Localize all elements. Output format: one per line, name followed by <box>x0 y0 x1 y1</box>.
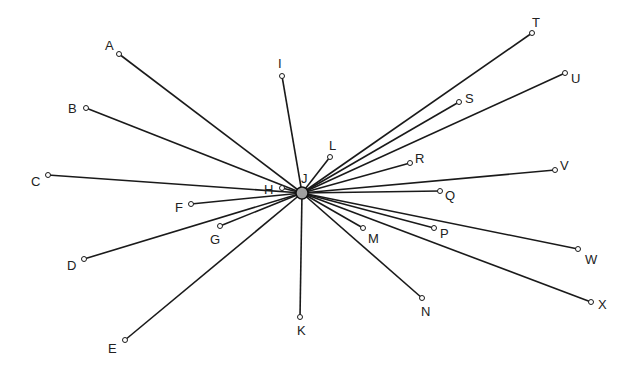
node-q <box>438 189 443 194</box>
node-label-e: E <box>108 341 117 356</box>
node-i <box>280 74 285 79</box>
node-r <box>408 161 413 166</box>
spoke-m <box>302 193 363 228</box>
node-label-s: S <box>465 91 474 106</box>
node-label-t: T <box>532 15 540 30</box>
nodes-group <box>46 31 594 343</box>
spoke-s <box>302 102 459 193</box>
node-x <box>589 300 594 305</box>
node-label-u: U <box>571 71 580 86</box>
node-c <box>46 173 51 178</box>
node-label-h: H <box>264 182 273 197</box>
node-label-l: L <box>329 138 336 153</box>
node-t <box>530 31 535 36</box>
node-label-d: D <box>67 258 76 273</box>
node-s <box>457 100 462 105</box>
node-label-n: N <box>421 304 430 319</box>
spoke-v <box>302 170 555 193</box>
spoke-t <box>302 33 532 193</box>
star-network-diagram: ABCDEFGHIKLMNPQRSTUVWX J <box>0 0 635 365</box>
node-h <box>280 186 285 191</box>
spoke-i <box>282 76 302 193</box>
node-d <box>82 257 87 262</box>
node-label-c: C <box>31 174 40 189</box>
node-l <box>328 155 333 160</box>
node-w <box>576 247 581 252</box>
node-p <box>432 226 437 231</box>
spoke-e <box>125 193 302 340</box>
node-label-k: K <box>297 323 306 338</box>
spoke-k <box>300 193 302 317</box>
node-label-x: X <box>598 297 607 312</box>
spoke-g <box>220 193 302 226</box>
node-label-v: V <box>560 158 569 173</box>
spoke-a <box>119 54 302 193</box>
node-f <box>189 202 194 207</box>
spoke-u <box>302 73 565 193</box>
hub-label: J <box>301 171 308 186</box>
spoke-x <box>302 193 591 302</box>
node-label-b: B <box>68 101 77 116</box>
node-e <box>123 338 128 343</box>
node-label-p: P <box>440 226 449 241</box>
hub-node: J <box>296 171 308 199</box>
node-label-w: W <box>585 252 598 267</box>
node-label-m: M <box>368 231 379 246</box>
node-a <box>117 52 122 57</box>
node-n <box>420 296 425 301</box>
node-v <box>553 168 558 173</box>
node-g <box>218 224 223 229</box>
node-m <box>361 226 366 231</box>
node-label-i: I <box>278 56 282 71</box>
node-label-a: A <box>105 38 114 53</box>
node-label-q: Q <box>445 188 455 203</box>
node-b <box>84 106 89 111</box>
node-k <box>298 315 303 320</box>
node-u <box>563 71 568 76</box>
node-label-r: R <box>415 151 424 166</box>
node-label-f: F <box>175 200 183 215</box>
node-label-g: G <box>210 232 220 247</box>
spokes-group <box>48 33 591 340</box>
